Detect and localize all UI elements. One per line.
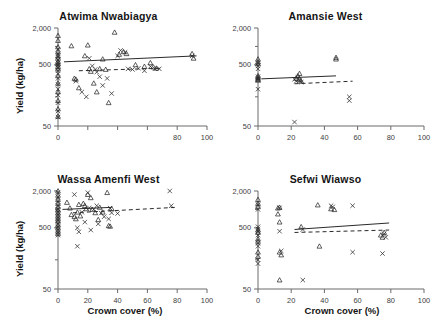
svg-text:500: 500: [39, 60, 51, 69]
panel-atwima-nwabiagya: Atwima Nwabiagya Yield (kg/ha) 505002,00…: [0, 2, 217, 165]
svg-text:80: 80: [387, 133, 395, 142]
svg-text:60: 60: [143, 296, 151, 305]
svg-text:50: 50: [243, 285, 251, 294]
svg-text:500: 500: [39, 223, 51, 232]
panel-wassa-amenfi-west: Wassa Amenfi West Yield (kg/ha) 505002,0…: [0, 165, 217, 331]
panel-amansie-west: Amansie West 505002,000020406080100: [217, 2, 434, 165]
svg-text:100: 100: [201, 133, 213, 142]
figure-panel-grid: Atwima Nwabiagya Yield (kg/ha) 505002,00…: [0, 0, 434, 331]
svg-text:2,000: 2,000: [33, 24, 52, 33]
svg-text:50: 50: [243, 122, 251, 131]
plot-area-wassa: 505002,000020406080100: [0, 165, 217, 305]
svg-text:20: 20: [287, 296, 295, 305]
plot-area-amansie: 505002,000020406080100: [217, 2, 434, 165]
svg-text:60: 60: [353, 133, 361, 142]
svg-text:20: 20: [287, 133, 295, 142]
svg-text:80: 80: [173, 133, 181, 142]
svg-text:20: 20: [84, 296, 92, 305]
svg-text:2,000: 2,000: [233, 24, 252, 33]
svg-text:0: 0: [56, 296, 60, 305]
plot-area-atwima: 505002,000080100: [0, 2, 217, 165]
svg-text:500: 500: [239, 60, 251, 69]
svg-text:50: 50: [43, 122, 51, 131]
svg-text:0: 0: [256, 296, 260, 305]
svg-text:40: 40: [113, 296, 121, 305]
svg-text:100: 100: [418, 296, 430, 305]
x-axis-title: Crown cover (%): [257, 305, 427, 316]
svg-text:50: 50: [43, 285, 51, 294]
svg-text:100: 100: [201, 296, 213, 305]
svg-text:80: 80: [387, 296, 395, 305]
svg-text:2,000: 2,000: [233, 187, 252, 196]
svg-text:0: 0: [56, 133, 60, 142]
panel-sefwi-wiawso: Sefwi Wiawso 505002,000020406080100 Crow…: [217, 165, 434, 331]
svg-text:0: 0: [256, 133, 260, 142]
svg-text:40: 40: [320, 296, 328, 305]
svg-text:60: 60: [353, 296, 361, 305]
x-axis-title: Crown cover (%): [40, 305, 210, 316]
plot-area-sefwi: 505002,000020406080100: [217, 165, 434, 305]
svg-text:40: 40: [320, 133, 328, 142]
svg-text:2,000: 2,000: [33, 187, 52, 196]
svg-text:100: 100: [418, 133, 430, 142]
svg-text:80: 80: [173, 296, 181, 305]
svg-text:500: 500: [239, 223, 251, 232]
